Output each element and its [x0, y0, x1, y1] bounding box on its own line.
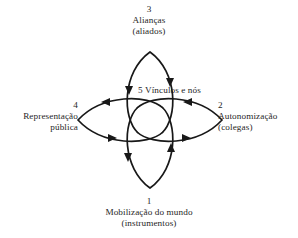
- node-number-2: 2: [218, 100, 298, 111]
- node-title-1: Mobilização do mundo: [0, 207, 298, 218]
- arrowhead-right-bottom-right: [182, 134, 191, 142]
- arrowhead-left-bottom-right: [108, 134, 117, 142]
- node-subtitle-4: pública: [2, 122, 78, 133]
- arrowhead-top-left-down: [125, 86, 133, 95]
- node-label-representacao: 4 Representação pública: [2, 100, 78, 134]
- node-label-aliancas: 3 Alianças (aliados): [0, 4, 298, 38]
- arrowhead-left-top-left: [101, 98, 110, 106]
- diagram-canvas: .petal { fill: none; stroke: #181818; st…: [0, 0, 298, 238]
- node-title-3: Alianças: [0, 15, 298, 26]
- node-subtitle-2: (colegas): [218, 122, 298, 133]
- node-subtitle-3: (aliados): [0, 26, 298, 37]
- arrowhead-bottom-right-up: [167, 143, 175, 152]
- node-number-1: 1: [0, 196, 298, 207]
- loop-left: [78, 99, 163, 142]
- node-subtitle-1: (instrumentos): [0, 218, 298, 229]
- node-number-3: 3: [0, 4, 298, 15]
- node-label-vinculos-e-nos: 5 Vínculos e nós: [138, 85, 201, 96]
- node-number-4: 4: [2, 100, 78, 111]
- node-label-mobilizacao: 1 Mobilização do mundo (instrumentos): [0, 196, 298, 230]
- node-title-2: Autonomização: [218, 111, 298, 122]
- arrowhead-right-top-left: [183, 98, 192, 106]
- node-title-4: Representação: [2, 111, 78, 122]
- node-label-autonomizacao: 2 Autonomização (colegas): [218, 100, 298, 134]
- loop-right: [137, 99, 222, 142]
- loop-bottom: [127, 107, 173, 188]
